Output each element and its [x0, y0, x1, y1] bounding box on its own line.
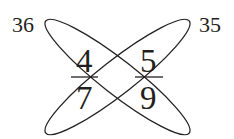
- numerator-left: 4: [76, 43, 93, 79]
- ellipse-ascending: [35, 8, 199, 139]
- label-top-right: 35: [199, 12, 221, 37]
- ellipse-descending: [35, 8, 199, 139]
- denominator-right: 9: [140, 80, 157, 116]
- crossed-ellipses-diagram: 36 35 4 7 5 9: [0, 0, 234, 139]
- numerator-right: 5: [140, 43, 157, 79]
- label-top-left: 36: [12, 12, 34, 37]
- denominator-left: 7: [76, 80, 93, 116]
